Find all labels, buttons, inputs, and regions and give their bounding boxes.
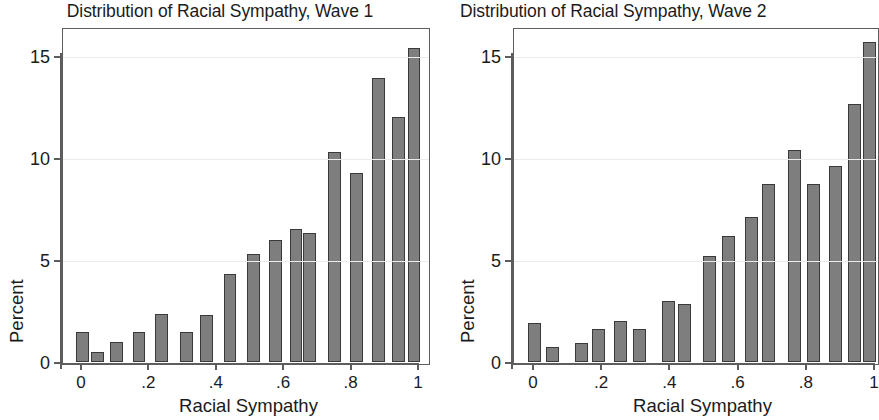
figure-two-histograms: Distribution of Racial Sympathy, Wave 1 …: [0, 0, 879, 420]
x-axis-tick: [282, 363, 284, 370]
y-axis-title-wave1: Percent: [6, 279, 28, 343]
x-axis-tick: [600, 363, 602, 370]
histogram-bar: [678, 304, 691, 362]
y-axis-tick-label: 0: [6, 353, 50, 374]
histogram-bar: [528, 323, 541, 362]
histogram-bar: [575, 343, 588, 362]
x-axis-tick: [532, 363, 534, 370]
y-axis-tick-label: 5: [6, 251, 50, 272]
histogram-bar: [133, 332, 146, 362]
histogram-bar: [91, 352, 104, 362]
x-axis-tick: [350, 363, 352, 370]
histogram-bar: [546, 347, 559, 362]
y-axis-tick-label: 0: [457, 353, 501, 374]
plot-area-wave1: [62, 28, 430, 365]
histogram-bar: [269, 240, 282, 362]
x-axis-title-wave1: Racial Sympathy: [40, 395, 457, 417]
gridline-y-5: [63, 261, 429, 262]
y-axis-tick: [505, 158, 512, 160]
gridline-y-5: [514, 261, 878, 262]
x-axis-tick: [417, 363, 419, 370]
histogram-bar: [633, 329, 646, 362]
x-axis-tick: [80, 363, 82, 370]
x-axis-tick: [668, 363, 670, 370]
histogram-bar: [155, 314, 168, 362]
chart-title-wave1: Distribution of Racial Sympathy, Wave 1: [0, 1, 440, 22]
histogram-bar: [788, 150, 801, 362]
x-axis-tick-label: 1: [869, 373, 878, 393]
x-axis-tick: [805, 363, 807, 370]
chart-panel-wave1: Distribution of Racial Sympathy, Wave 1 …: [0, 0, 440, 420]
y-axis-tick: [54, 260, 61, 262]
histogram-bar: [392, 117, 405, 362]
x-axis-tick-label: 0: [76, 373, 85, 393]
histogram-bar: [829, 166, 842, 362]
gridline-y-10: [514, 159, 878, 160]
x-axis-tick: [215, 363, 217, 370]
y-axis-title-wave2: Percent: [457, 279, 479, 343]
y-axis-tick-label: 5: [457, 251, 501, 272]
x-axis-tick-label: .4: [662, 373, 676, 393]
chart-panel-wave2: Distribution of Racial Sympathy, Wave 2 …: [440, 0, 879, 420]
chart-title-wave2: Distribution of Racial Sympathy, Wave 2: [460, 1, 879, 22]
histogram-bar: [703, 256, 716, 362]
y-axis-line: [511, 53, 513, 369]
x-axis-tick-label: 1: [413, 373, 422, 393]
histogram-bar: [863, 42, 876, 362]
x-axis-tick: [737, 363, 739, 370]
x-axis-tick: [147, 363, 149, 370]
histogram-bar: [848, 104, 861, 362]
histogram-bar: [110, 342, 123, 362]
x-axis-line: [60, 363, 419, 365]
gridline-y-10: [63, 159, 429, 160]
histogram-bar: [247, 254, 260, 362]
histogram-bar: [662, 301, 675, 362]
histogram-bar: [350, 173, 363, 362]
x-axis-tick-label: .4: [209, 373, 223, 393]
histogram-bar: [76, 332, 89, 362]
histogram-bar: [224, 274, 237, 362]
y-axis-tick-label: 15: [457, 47, 501, 68]
y-axis-tick: [54, 56, 61, 58]
y-axis-tick: [505, 260, 512, 262]
histogram-bar: [180, 332, 193, 362]
histogram-bar: [722, 236, 735, 362]
y-axis-tick: [505, 362, 512, 364]
plot-area-wave2: [513, 28, 879, 365]
gridline-y-15: [514, 57, 878, 58]
y-axis-tick: [505, 56, 512, 58]
x-axis-tick: [873, 363, 875, 370]
x-axis-title-wave2: Racial Sympathy: [492, 395, 879, 417]
histogram-bar: [807, 184, 820, 363]
histogram-bar: [762, 184, 775, 363]
y-axis-tick-label: 10: [6, 149, 50, 170]
x-axis-tick-label: .2: [594, 373, 608, 393]
histogram-bar: [290, 229, 303, 362]
histogram-bar: [372, 78, 385, 362]
histogram-bar: [614, 321, 627, 362]
y-axis-tick-label: 15: [6, 47, 50, 68]
x-axis-tick-label: .8: [799, 373, 813, 393]
y-axis-tick: [54, 158, 61, 160]
histogram-bar: [408, 48, 421, 362]
x-axis-tick-label: .2: [141, 373, 155, 393]
x-axis-tick-label: 0: [528, 373, 537, 393]
y-axis-line: [60, 53, 62, 369]
x-axis-tick-label: .8: [344, 373, 358, 393]
bars-group-wave1: [63, 29, 429, 364]
gridline-y-15: [63, 57, 429, 58]
x-axis-line: [511, 363, 874, 365]
x-axis-tick-label: .6: [276, 373, 290, 393]
histogram-bar: [303, 233, 316, 362]
x-axis-tick-label: .6: [731, 373, 745, 393]
y-axis-tick-label: 10: [457, 149, 501, 170]
histogram-bar: [592, 329, 605, 362]
y-axis-tick: [54, 362, 61, 364]
histogram-bar: [200, 315, 213, 362]
histogram-bar: [328, 152, 341, 362]
histogram-bar: [745, 217, 758, 362]
bars-group-wave2: [514, 29, 878, 364]
